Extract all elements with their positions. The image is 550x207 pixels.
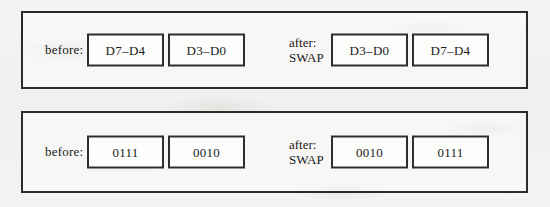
- swap-panel-nibble-names: before: D7–D4 D3–D0 after: SWAP D3–D0 D7…: [21, 11, 528, 89]
- after-label-line1: after:: [289, 35, 324, 50]
- before-label: before:: [45, 42, 83, 58]
- after-box-high-nibble: D3–D0: [331, 34, 408, 67]
- after-box-high-nibble: 0010: [331, 136, 408, 169]
- swap-panel-binary-example: before: 0111 0010 after: SWAP 0010 0111: [21, 111, 528, 193]
- after-label-line2: SWAP: [289, 50, 324, 65]
- after-box-low-nibble: D7–D4: [412, 34, 489, 67]
- panel-row: before: 0111 0010 after: SWAP 0010 0111: [23, 113, 526, 191]
- after-swap-label: after: SWAP: [289, 35, 324, 65]
- after-box-group: 0010 0111: [331, 136, 489, 169]
- before-box-group: D7–D4 D3–D0: [87, 34, 245, 67]
- before-label: before:: [45, 144, 83, 160]
- before-box-low-nibble: D3–D0: [168, 34, 245, 67]
- after-box-low-nibble: 0111: [412, 136, 489, 169]
- before-box-high-nibble: D7–D4: [87, 34, 164, 67]
- after-box-group: D3–D0 D7–D4: [331, 34, 489, 67]
- after-label-line1: after:: [289, 137, 324, 152]
- before-box-high-nibble: 0111: [87, 136, 164, 169]
- panel-row: before: D7–D4 D3–D0 after: SWAP D3–D0 D7…: [23, 13, 526, 87]
- before-box-low-nibble: 0010: [168, 136, 245, 169]
- after-swap-label: after: SWAP: [289, 137, 324, 167]
- after-label-line2: SWAP: [289, 152, 324, 167]
- before-box-group: 0111 0010: [87, 136, 245, 169]
